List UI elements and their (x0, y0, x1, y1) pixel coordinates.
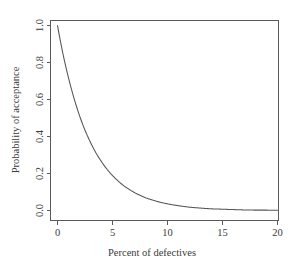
oc-curve-plot: 1.0 0.8 0.6 0.4 0.2 0.0 0 5 10 15 20 Per… (0, 0, 296, 272)
oc-curve-line (58, 26, 278, 211)
x-tick-label-20: 20 (272, 227, 283, 238)
y-tick-label-0_8: 0.8 (34, 56, 45, 69)
x-tick-label-0: 0 (55, 227, 60, 238)
plot-frame (51, 21, 279, 221)
x-tick-label-15: 15 (217, 227, 228, 238)
y-axis-ticks (47, 26, 51, 211)
y-tick-label-0_0: 0.0 (34, 204, 45, 217)
x-tick-label-10: 10 (162, 227, 173, 238)
x-tick-label-5: 5 (110, 227, 115, 238)
x-axis-tick-labels: 0 5 10 15 20 (55, 227, 283, 238)
y-tick-label-0_4: 0.4 (34, 129, 45, 143)
y-axis-title: Probability of acceptance (10, 66, 21, 173)
chart-figure: 1.0 0.8 0.6 0.4 0.2 0.0 0 5 10 15 20 Per… (0, 0, 296, 272)
x-axis-ticks (58, 221, 278, 225)
y-tick-label-0_2: 0.2 (34, 167, 45, 180)
y-tick-label-0_6: 0.6 (34, 93, 45, 106)
y-tick-label-1_0: 1.0 (34, 19, 45, 32)
y-axis-tick-labels: 1.0 0.8 0.6 0.4 0.2 0.0 (34, 19, 45, 217)
x-axis-title: Percent of defectives (108, 247, 196, 258)
